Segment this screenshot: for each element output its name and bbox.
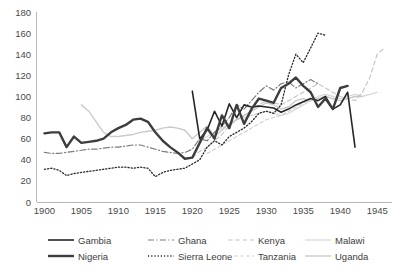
series-layer <box>44 33 384 177</box>
chart-canvas: 020406080100120140160180 190019051910191… <box>0 0 400 268</box>
x-tick-label: 1945 <box>367 205 388 216</box>
legend-item-malawi[interactable]: Malawi <box>305 235 365 246</box>
x-tick-label: 1905 <box>71 205 92 216</box>
series-line-sierra-leone <box>44 33 325 177</box>
y-tick-label: 60 <box>20 133 31 144</box>
legend-item-tanzania[interactable]: Tanzania <box>228 251 297 262</box>
legend-label: Tanzania <box>258 251 297 262</box>
x-tick-label: 1920 <box>182 205 203 216</box>
legend-label: Malawi <box>335 235 365 246</box>
legend-label: Gambia <box>78 235 112 246</box>
x-axis-tick-labels: 1900190519101915192019251930193519401945 <box>34 205 388 216</box>
legend-item-ghana[interactable]: Ghana <box>148 235 207 246</box>
series-line-kenya <box>192 48 384 158</box>
line-chart: 020406080100120140160180 190019051910191… <box>0 0 400 268</box>
y-tick-label: 40 <box>20 154 31 165</box>
x-tick-label: 1935 <box>293 205 314 216</box>
x-tick-label: 1925 <box>219 205 240 216</box>
y-tick-label: 20 <box>20 175 31 186</box>
legend-item-sierra-leone[interactable]: Sierra Leone <box>148 251 232 262</box>
legend-item-kenya[interactable]: Kenya <box>228 235 286 246</box>
y-tick-label: 180 <box>15 7 31 18</box>
chart-legend: GambiaGhanaKenyaMalawiNigeriaSierra Leon… <box>48 235 369 262</box>
legend-label: Uganda <box>335 251 369 262</box>
y-tick-label: 120 <box>15 70 31 81</box>
legend-item-uganda[interactable]: Uganda <box>305 251 369 262</box>
x-tick-label: 1915 <box>145 205 166 216</box>
y-tick-label: 160 <box>15 28 31 39</box>
x-tick-label: 1940 <box>330 205 351 216</box>
x-tick-label: 1930 <box>256 205 277 216</box>
y-tick-label: 0 <box>26 197 31 208</box>
legend-label: Sierra Leone <box>178 251 232 262</box>
legend-label: Ghana <box>178 235 207 246</box>
y-tick-label: 80 <box>20 112 31 123</box>
y-axis-tick-labels: 020406080100120140160180 <box>15 7 31 208</box>
x-tick-label: 1900 <box>34 205 55 216</box>
legend-label: Kenya <box>258 235 286 246</box>
y-tick-label: 140 <box>15 49 31 60</box>
y-tick-label: 100 <box>15 91 31 102</box>
legend-label: Nigeria <box>78 251 109 262</box>
legend-item-gambia[interactable]: Gambia <box>48 235 112 246</box>
legend-item-nigeria[interactable]: Nigeria <box>48 251 109 262</box>
x-tick-label: 1910 <box>108 205 129 216</box>
